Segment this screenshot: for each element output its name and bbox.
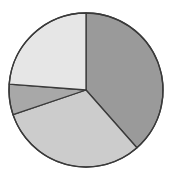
pie-slices bbox=[9, 13, 163, 167]
pie-slice-4 bbox=[9, 13, 86, 90]
pie-chart bbox=[0, 0, 173, 173]
